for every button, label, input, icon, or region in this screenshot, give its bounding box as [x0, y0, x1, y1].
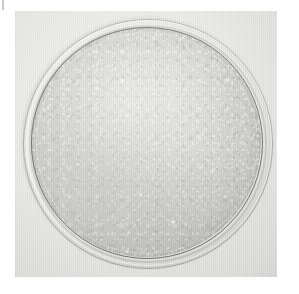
screenshot-canvas: [0, 0, 299, 294]
colony-spot: [121, 80, 125, 84]
colony-spot: [171, 220, 176, 225]
colony-spot: [100, 131, 103, 134]
colony-dense-region-lower-left: [31, 27, 261, 257]
colony-speckle-coarse: [31, 27, 261, 257]
colony-spot: [139, 193, 143, 197]
agar-shading: [31, 27, 261, 257]
petri-dish-photograph: [15, 11, 277, 277]
crop-tick-mark-icon: [2, 0, 4, 10]
agar-condensation-ring: [36, 32, 258, 254]
colony-speckle-fine: [31, 27, 261, 257]
colony-spot: [77, 163, 80, 166]
colony-dense-region-lower-right: [31, 27, 261, 257]
colony-spot: [210, 170, 214, 174]
agar-medium: [31, 27, 261, 257]
